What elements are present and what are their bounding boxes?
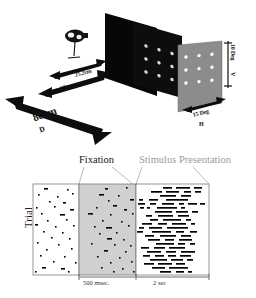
angle-label-horizontal-axis: H — [199, 121, 203, 127]
leader-lines — [79, 167, 209, 184]
figure-root: 25.2cm 45cm 80cm D 10 Deg V 15 Deg H Fix… — [0, 0, 256, 298]
raster-plot: Fixation Stimulus Presentation Trial 500… — [0, 150, 256, 298]
front-dot-screen — [178, 41, 222, 112]
projector-icon — [65, 30, 88, 59]
apparatus-diagram: 25.2cm 45cm 80cm D 10 Deg V 15 Deg H — [0, 0, 256, 150]
angle-label-vertical-axis: V — [230, 72, 236, 76]
panel-prefixation — [33, 184, 79, 275]
panel-fixation — [79, 184, 136, 275]
distance-arrow-front — [5, 96, 112, 145]
panel-stimulus — [136, 184, 209, 275]
angle-label-vertical-value: 10 Deg — [230, 44, 236, 60]
raster-svg — [0, 150, 256, 298]
